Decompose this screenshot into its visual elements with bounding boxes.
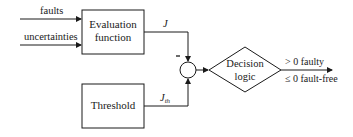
evaluation-line1: Evaluation: [82, 18, 144, 31]
summing-junction: [180, 62, 196, 78]
jth-subscript: th: [165, 97, 170, 105]
evaluation-line2: function: [82, 31, 144, 44]
faults-label: faults: [40, 5, 63, 17]
decision-line1: Decision: [215, 57, 275, 70]
diagram-canvas: [0, 0, 353, 137]
uncertainties-label: uncertainties: [24, 31, 78, 43]
j-label: J: [163, 18, 168, 30]
decision-line2: logic: [215, 70, 275, 83]
fault-free-output-label: ≤ 0 fault-free: [285, 73, 338, 85]
j-signal-line: [144, 32, 188, 61]
evaluation-function-text: Evaluation function: [82, 18, 144, 44]
faulty-output-label: > 0 faulty: [285, 56, 324, 68]
jth-label: Jth: [160, 92, 170, 107]
threshold-text: Threshold: [82, 99, 144, 112]
decision-logic-text: Decision logic: [215, 57, 275, 83]
